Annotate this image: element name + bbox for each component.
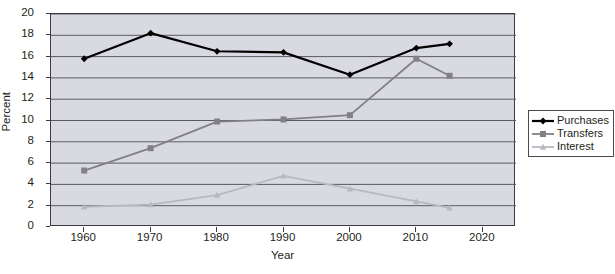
y-tick-label: 0 bbox=[28, 220, 34, 232]
data-point-marker bbox=[148, 145, 154, 151]
data-point-marker bbox=[446, 40, 453, 47]
plot-canvas bbox=[51, 14, 516, 227]
x-tick-label: 1990 bbox=[258, 232, 308, 244]
x-axis-title: Year bbox=[0, 250, 565, 262]
y-tick-label: 8 bbox=[28, 135, 34, 147]
series-markers-purchases bbox=[81, 30, 453, 78]
y-tick-label: 12 bbox=[21, 92, 34, 104]
data-point-marker bbox=[214, 48, 221, 55]
data-point-marker bbox=[413, 45, 420, 52]
data-point-marker bbox=[214, 119, 220, 125]
x-tick-label: 1970 bbox=[125, 232, 175, 244]
series-line-interest bbox=[84, 176, 449, 208]
x-tick-label: 2000 bbox=[324, 232, 374, 244]
x-tick-label: 1960 bbox=[58, 232, 108, 244]
chart-legend: PurchasesTransfersInterest bbox=[528, 110, 614, 157]
data-point-marker bbox=[413, 56, 419, 62]
x-tick-label: 1980 bbox=[191, 232, 241, 244]
legend-item-purchases[interactable]: Purchases bbox=[531, 114, 609, 127]
legend-item-interest[interactable]: Interest bbox=[531, 140, 609, 153]
data-point-marker bbox=[81, 168, 87, 174]
data-point-marker bbox=[280, 49, 287, 56]
y-axis: 02468101214161820 bbox=[0, 0, 44, 274]
y-tick-label: 4 bbox=[28, 177, 34, 189]
chart-figure: Percent 02468101214161820 19601970198019… bbox=[0, 0, 615, 274]
x-tick-label: 2020 bbox=[457, 232, 507, 244]
y-tick-label: 6 bbox=[28, 156, 34, 168]
legend-swatch-triangle-icon bbox=[531, 141, 555, 153]
legend-swatch-square-icon bbox=[531, 128, 555, 140]
data-point-marker bbox=[281, 116, 287, 122]
data-point-marker bbox=[347, 112, 353, 118]
y-tick-label: 16 bbox=[21, 50, 34, 62]
data-point-marker bbox=[347, 71, 354, 78]
y-tick-label: 20 bbox=[21, 7, 34, 19]
x-tick-label: 2010 bbox=[390, 232, 440, 244]
data-point-marker bbox=[540, 131, 546, 137]
y-tick-mark bbox=[46, 226, 50, 227]
data-point-marker bbox=[540, 117, 547, 124]
plot-area bbox=[50, 13, 515, 226]
y-tick-label: 18 bbox=[21, 28, 34, 40]
series-line-purchases bbox=[84, 33, 449, 75]
y-tick-label: 14 bbox=[21, 71, 34, 83]
y-tick-label: 10 bbox=[21, 114, 34, 126]
series-markers-transfers bbox=[81, 56, 452, 174]
legend-label: Interest bbox=[555, 141, 594, 152]
y-tick-label: 2 bbox=[28, 199, 34, 211]
legend-swatch-diamond-icon bbox=[531, 115, 555, 127]
legend-item-transfers[interactable]: Transfers bbox=[531, 127, 609, 140]
legend-label: Transfers bbox=[555, 128, 603, 139]
legend-label: Purchases bbox=[555, 115, 609, 126]
data-point-marker bbox=[447, 73, 453, 79]
series-line-transfers bbox=[84, 59, 449, 171]
